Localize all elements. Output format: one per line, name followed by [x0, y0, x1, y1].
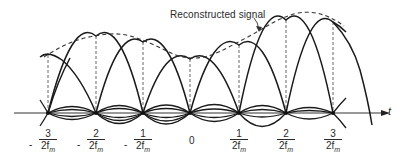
- tick-plus-1: 12fm: [222, 128, 256, 155]
- tick-plus-2: 22fm: [269, 128, 303, 155]
- tick-minus-2: - 22fm: [79, 128, 113, 155]
- sample-lines: [48, 20, 333, 113]
- tick-minus-3: - 32fm: [31, 128, 65, 155]
- tick-zero: 0: [189, 135, 195, 146]
- tick-minus-1: - 12fm: [126, 128, 160, 155]
- time-axis-label: t: [388, 105, 391, 117]
- reconstructed-signal-label: Reconstructed signal: [170, 9, 265, 20]
- tick-plus-3: 32fm: [316, 128, 350, 155]
